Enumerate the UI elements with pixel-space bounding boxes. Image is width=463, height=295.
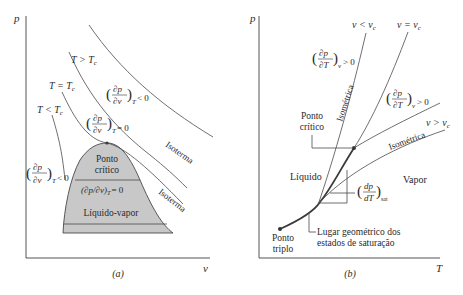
svg-text:> 0: > 0	[343, 57, 355, 67]
svg-text:∂v: ∂v	[113, 96, 121, 106]
svg-text:∂p: ∂p	[393, 88, 402, 98]
svg-text:(: (	[106, 86, 111, 103]
isotherm-label-2: Isoterma	[157, 187, 188, 214]
svg-text:v: v	[338, 62, 342, 70]
svg-text:∂T: ∂T	[319, 60, 329, 70]
liquid-vapor-label: Líquido-vapor	[84, 208, 140, 218]
svg-text:< 0: < 0	[57, 173, 69, 183]
label-v-greater-vc: v > vc	[426, 117, 451, 130]
svg-text:< 0: < 0	[137, 93, 149, 103]
isotherm-below-critical	[52, 115, 65, 180]
label-v-less-vc: v < vc	[352, 19, 377, 32]
derivative-label-negative-left: ( ∂p ∂v ) T < 0	[26, 162, 69, 185]
critical-point-label-a1: Ponto	[96, 154, 118, 164]
saturation-curve	[280, 148, 354, 229]
label-t-less-tc: T < Tc	[37, 104, 64, 117]
svg-text:∂v: ∂v	[33, 175, 41, 185]
svg-text:∂v: ∂v	[93, 125, 101, 135]
critical-point-label-b1: Ponto	[301, 111, 323, 121]
triple-point	[278, 227, 282, 231]
svg-text:(: (	[312, 50, 317, 67]
isotherm-label-1: Isoterma	[164, 139, 196, 165]
svg-text:dp: dp	[364, 181, 374, 191]
svg-text:(: (	[86, 115, 91, 132]
svg-text:(: (	[26, 165, 31, 182]
critical-point-label-b2: crítico	[300, 122, 325, 132]
svg-text:∂T: ∂T	[393, 100, 403, 110]
derivative-label-upper-b: ( ∂p ∂T ) v > 0	[312, 48, 355, 70]
svg-text:∂p: ∂p	[319, 48, 328, 58]
inline-derivative-label: (∂p/∂v)T= 0	[81, 185, 124, 196]
svg-text:(: (	[386, 90, 391, 107]
isometric-label-2: Isométrica	[387, 129, 426, 151]
liquid-region-label: Líquido	[290, 171, 322, 182]
saturation-locus-label-2: estados de saturação	[317, 238, 395, 248]
panel-b: p T v < vc v = vc v > vc Isométrica Isom…	[249, 12, 451, 280]
isometric-v-greater-vc	[320, 130, 445, 202]
triple-point-label-2: triplo	[273, 244, 294, 254]
derivative-label-zero: ( ∂p ∂v ) T = 0	[86, 113, 129, 135]
y-axis-label-a: p	[13, 12, 20, 24]
svg-text:∂p: ∂p	[93, 113, 102, 123]
label-t-equal-tc: T = Tc	[49, 80, 76, 93]
panel-a: p v T > Tc T = Tc T < Tc ( ∂p ∂v ) T	[13, 12, 213, 280]
thermo-diagram: p v T > Tc T = Tc T < Tc ( ∂p ∂v ) T	[0, 0, 463, 295]
svg-text:v: v	[412, 102, 416, 110]
derivative-label-saturation: ( dp dT ) sat	[357, 181, 388, 203]
svg-text:∂p: ∂p	[113, 84, 122, 94]
saturation-locus-label-1: Lugar geométrico dos	[317, 227, 401, 237]
label-v-equal-vc: v = vc	[397, 19, 422, 32]
triple-point-label-1: Ponto	[272, 233, 294, 243]
derivative-label-middle-b: ( ∂p ∂T ) v > 0	[386, 88, 429, 110]
svg-text:(: (	[357, 183, 362, 200]
derivative-label-negative-upper: ( ∂p ∂v ) T < 0	[106, 84, 149, 106]
x-axis-label-a: v	[203, 262, 208, 274]
svg-text:= 0: = 0	[117, 123, 129, 133]
svg-text:> 0: > 0	[417, 97, 429, 107]
caption-b: (b)	[344, 268, 356, 280]
svg-text:dT: dT	[364, 193, 375, 203]
critical-point-leader	[312, 135, 352, 148]
x-axis-label-b: T	[436, 262, 443, 274]
vapor-region-label: Vapor	[403, 174, 428, 185]
isometric-label-1: Isométrica	[334, 83, 355, 122]
saturation-leader	[309, 212, 316, 232]
y-axis-label-b: p	[249, 12, 256, 24]
svg-text:sat: sat	[381, 196, 388, 202]
critical-point-label-a2: crítico	[95, 165, 120, 175]
svg-text:∂p: ∂p	[33, 162, 42, 172]
caption-a: (a)	[112, 268, 124, 280]
